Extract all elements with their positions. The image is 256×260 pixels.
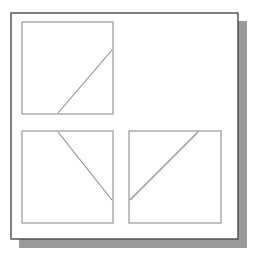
panel-bottom-right (129, 131, 221, 223)
figure-root (0, 0, 256, 260)
panel-top-left (22, 22, 113, 114)
figure-canvas (0, 0, 256, 260)
